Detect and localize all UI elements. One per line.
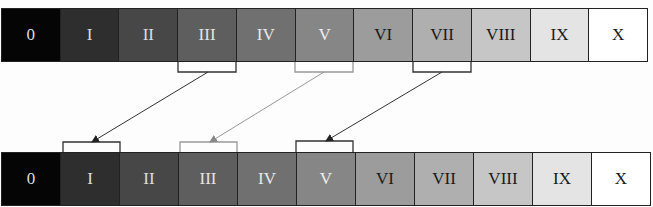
bottom-cell-0: 0 (2, 153, 61, 205)
arrow-vii-to-v (326, 72, 442, 141)
top-cell-0: 0 (2, 9, 61, 61)
bracket-bottom-v (296, 141, 353, 152)
bottom-cell-i: I (61, 153, 120, 205)
top-cell-iii: III (178, 9, 237, 61)
bracket-top-v (295, 62, 353, 72)
bottom-cell-vii: VII (415, 153, 474, 205)
bracket-bottom-i (63, 142, 120, 152)
bracket-bottom-iii (180, 142, 237, 152)
bottom-cell-iv: IV (238, 153, 297, 205)
top-cell-viii: VIII (472, 9, 531, 61)
top-cell-vi: VI (354, 9, 413, 61)
top-cell-ii: II (119, 9, 178, 61)
bottom-cell-ix: IX (533, 153, 592, 205)
top-cell-v: V (296, 9, 355, 61)
bottom-cell-v: V (297, 153, 356, 205)
bottom-cell-x: X (592, 153, 650, 205)
top-cell-i: I (61, 9, 120, 61)
bottom-grayscale-row: 0IIIIIIIVVVIVIIVIIIIXX (1, 152, 651, 206)
top-cell-ix: IX (531, 9, 590, 61)
bottom-cell-vi: VI (356, 153, 415, 205)
top-cell-iv: IV (237, 9, 296, 61)
top-cell-x: X (589, 9, 647, 61)
arrow-v-to-iii (210, 72, 324, 142)
bracket-top-vii (413, 62, 471, 72)
bottom-cell-ii: II (120, 153, 179, 205)
top-cell-vii: VII (413, 9, 472, 61)
bottom-cell-viii: VIII (474, 153, 533, 205)
bottom-cell-iii: III (179, 153, 238, 205)
arrow-iii-to-i (92, 72, 208, 142)
bracket-top-iii (178, 62, 236, 72)
top-grayscale-row: 0IIIIIIIVVVIVIIVIIIIXX (1, 8, 648, 62)
